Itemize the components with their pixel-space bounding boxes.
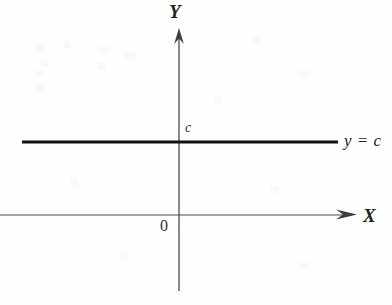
x-axis-label: X (363, 206, 376, 225)
figure-canvas: Y X 0 c y = c (0, 0, 392, 305)
equation-label: y = c (344, 132, 382, 149)
coordinate-plot (0, 0, 392, 305)
y-axis-label: Y (169, 2, 181, 21)
y-intercept-label: c (185, 121, 191, 135)
origin-label: 0 (160, 218, 168, 234)
